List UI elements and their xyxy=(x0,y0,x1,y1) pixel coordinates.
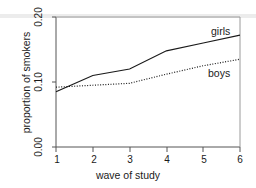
y-tick-marks xyxy=(52,17,56,147)
y-axis-title: proportion of smokers xyxy=(21,18,32,148)
y-tick-label-0.20: 0.20 xyxy=(34,6,44,28)
data-series-group xyxy=(56,35,240,92)
x-tick-label-3: 3 xyxy=(126,155,134,165)
series-line-girls xyxy=(56,35,240,92)
series-label-girls: girls xyxy=(211,26,230,37)
x-tick-label-6: 6 xyxy=(236,155,244,165)
x-axis-title: wave of study xyxy=(0,170,256,181)
x-tick-label-1: 1 xyxy=(53,155,61,165)
x-tick-label-2: 2 xyxy=(90,155,98,165)
x-tick-label-5: 5 xyxy=(200,155,208,165)
smoking-proportion-line-chart: 0.20 0.10 0.00 proportion of smokers 1 2… xyxy=(0,0,256,188)
y-tick-label-0.00: 0.00 xyxy=(34,136,44,158)
y-tick-label-0.10: 0.10 xyxy=(34,71,44,93)
x-tick-marks xyxy=(56,147,240,152)
series-label-boys: boys xyxy=(208,68,230,79)
x-tick-label-4: 4 xyxy=(163,155,171,165)
